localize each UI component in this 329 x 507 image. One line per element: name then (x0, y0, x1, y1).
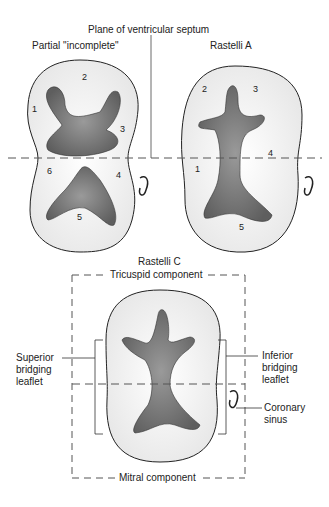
partial-leaflet-5: 5 (77, 212, 82, 222)
inferior-bridging-label-1: Inferior (262, 350, 293, 362)
rastelli-c-title: Rastelli C (138, 256, 181, 268)
tricuspid-component-label: Tricuspid component (110, 269, 202, 281)
partial-leaflet-3: 3 (120, 124, 125, 134)
superior-bridging-label-2: bridging (16, 364, 52, 376)
partial-leaflet-6: 6 (47, 166, 52, 176)
coronary-sinus-partial (140, 177, 148, 195)
plane-of-septum-label: Plane of ventricular septum (88, 24, 209, 36)
rastelli-a-leaflet-3: 3 (253, 84, 258, 94)
rastelli-a-leaflet-1: 1 (195, 164, 200, 174)
rastelli-a-leaflet-2: 2 (202, 84, 207, 94)
coronary-sinus-label-1: Coronary (264, 402, 305, 414)
partial-valve (28, 60, 148, 252)
superior-bridging-label-3: leaflet (16, 376, 43, 388)
superior-bracket (95, 340, 103, 434)
rastelli-a-leaflet-5: 5 (239, 222, 244, 232)
superior-bridging-label-1: Superior (16, 352, 54, 364)
coronary-sinus-c (230, 391, 238, 408)
coronary-sinus-a (305, 177, 313, 195)
mitral-component-label: Mitral component (119, 472, 196, 484)
rastelli-a-title: Rastelli A (210, 40, 252, 52)
inferior-bridging-label-2: bridging (262, 362, 298, 374)
partial-leaflet-4: 4 (116, 170, 121, 180)
inferior-bridging-label-3: leaflet (262, 374, 289, 386)
diagram-canvas (0, 0, 329, 507)
partial-leaflet-2: 2 (82, 72, 87, 82)
partial-leaflet-1: 1 (32, 104, 37, 114)
rastelli-a-leaflet-4: 4 (268, 148, 273, 158)
coronary-sinus-label-2: sinus (264, 414, 287, 426)
partial-title: Partial "incomplete" (32, 40, 119, 52)
rastelli-c-valve (106, 290, 238, 462)
